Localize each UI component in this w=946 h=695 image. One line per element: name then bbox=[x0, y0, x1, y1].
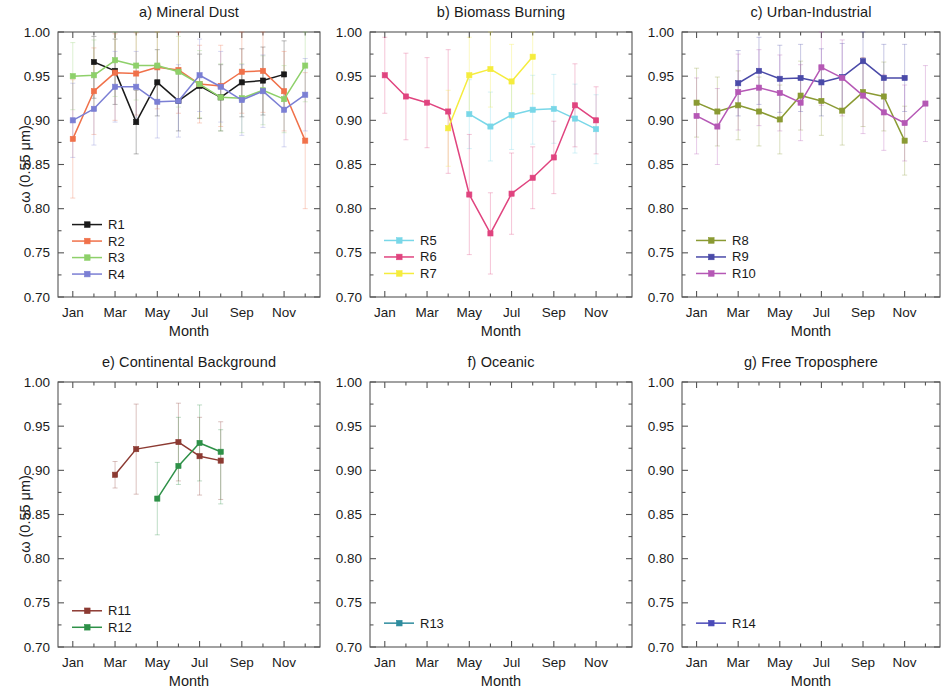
errorbars-R2 bbox=[70, 32, 307, 209]
xtick-label: May bbox=[767, 305, 793, 320]
xtick-label: Jul bbox=[191, 305, 208, 320]
ytick-label: 1.00 bbox=[648, 375, 674, 390]
ytick-label: 1.00 bbox=[336, 375, 362, 390]
xtick-label: May bbox=[457, 655, 483, 670]
legend-entry-R7[interactable]: R7 bbox=[384, 266, 437, 281]
legend-entry-R12[interactable]: R12 bbox=[72, 620, 132, 635]
legend-label-R1: R1 bbox=[108, 217, 125, 232]
xtick-label: Nov bbox=[272, 655, 296, 670]
xtick-label: Jul bbox=[503, 655, 520, 670]
xtick-label: Nov bbox=[584, 655, 608, 670]
ytick-label: 0.95 bbox=[648, 419, 674, 434]
legend-entry-R8[interactable]: R8 bbox=[696, 233, 749, 248]
panel-g: g) Free Troposphere1.000.950.900.850.800… bbox=[624, 354, 946, 695]
ytick-label: 0.85 bbox=[336, 507, 362, 522]
xtick-label: Nov bbox=[584, 305, 608, 320]
legend-entry-R10[interactable]: R10 bbox=[696, 266, 756, 281]
x-axis-title-g: Month bbox=[682, 673, 940, 689]
ytick-label: 0.70 bbox=[336, 640, 362, 655]
legend-entry-R13[interactable]: R13 bbox=[384, 616, 444, 631]
plot-area-b: 1.000.950.900.850.800.750.70JanMarMayJul… bbox=[312, 4, 654, 345]
ytick-label: 0.95 bbox=[336, 69, 362, 84]
legend-label-R5: R5 bbox=[420, 233, 437, 248]
ytick-label: 0.75 bbox=[336, 595, 362, 610]
ytick-label: 0.95 bbox=[336, 419, 362, 434]
xtick-label: Jul bbox=[191, 655, 208, 670]
ytick-label: 0.80 bbox=[648, 201, 674, 216]
xtick-label: Sep bbox=[230, 305, 254, 320]
series-R2 bbox=[70, 65, 308, 144]
xtick-label: Jan bbox=[374, 655, 396, 670]
ytick-label: 0.90 bbox=[648, 113, 674, 128]
ytick-label: 0.70 bbox=[648, 290, 674, 305]
legend-label-R10: R10 bbox=[732, 266, 756, 281]
legend-entry-R1[interactable]: R1 bbox=[72, 217, 125, 232]
xtick-label: May bbox=[457, 305, 483, 320]
x-axis-title-b: Month bbox=[370, 323, 632, 339]
xtick-label: Mar bbox=[727, 305, 751, 320]
ytick-label: 0.75 bbox=[648, 245, 674, 260]
xtick-label: May bbox=[145, 305, 171, 320]
errorbars-R1 bbox=[91, 36, 286, 153]
legend-entry-R9[interactable]: R9 bbox=[696, 249, 749, 264]
xtick-label: Sep bbox=[230, 655, 254, 670]
ytick-label: 0.80 bbox=[336, 551, 362, 566]
legend-entry-R5[interactable]: R5 bbox=[384, 233, 437, 248]
ytick-label: 0.70 bbox=[648, 640, 674, 655]
figure-canvas: a) Mineral Dust1.000.950.900.850.800.750… bbox=[0, 0, 946, 695]
x-axis-title-f: Month bbox=[370, 673, 632, 689]
legend-entry-R2[interactable]: R2 bbox=[72, 234, 125, 249]
xtick-label: Jan bbox=[374, 305, 396, 320]
xtick-label: Jul bbox=[813, 655, 830, 670]
xtick-label: Sep bbox=[542, 655, 566, 670]
xtick-label: Mar bbox=[727, 655, 751, 670]
errorbars-R12 bbox=[155, 405, 223, 535]
xtick-label: Nov bbox=[893, 305, 917, 320]
plot-area-c: 1.000.950.900.850.800.750.70JanMarMayJul… bbox=[624, 4, 946, 345]
legend-label-R13: R13 bbox=[420, 616, 444, 631]
errorbars-R11 bbox=[113, 403, 224, 499]
ytick-label: 0.70 bbox=[336, 290, 362, 305]
legend-entry-R6[interactable]: R6 bbox=[384, 249, 437, 264]
ytick-label: 0.85 bbox=[336, 157, 362, 172]
legend-entry-R3[interactable]: R3 bbox=[72, 250, 125, 265]
xtick-label: Mar bbox=[103, 655, 127, 670]
xtick-label: May bbox=[767, 655, 793, 670]
ytick-label: 0.80 bbox=[648, 551, 674, 566]
ytick-label: 0.85 bbox=[648, 507, 674, 522]
legend-label-R11: R11 bbox=[108, 603, 131, 618]
xtick-label: Nov bbox=[893, 655, 917, 670]
y-axis-title-a: ω (0.55 μm) bbox=[16, 31, 32, 296]
plot-area-a: 1.000.950.900.850.800.750.70JanMarMayJul… bbox=[0, 4, 342, 345]
xtick-label: Jan bbox=[686, 305, 708, 320]
legend-label-R9: R9 bbox=[732, 249, 749, 264]
ytick-label: 1.00 bbox=[336, 25, 362, 40]
ytick-label: 0.75 bbox=[336, 245, 362, 260]
legend-label-R8: R8 bbox=[732, 233, 749, 248]
legend-label-R3: R3 bbox=[108, 250, 125, 265]
panel-b: b) Biomass Burning1.000.950.900.850.800.… bbox=[312, 4, 654, 345]
legend-entry-R14[interactable]: R14 bbox=[696, 616, 756, 631]
ytick-label: 0.90 bbox=[336, 463, 362, 478]
plot-area-g: 1.000.950.900.850.800.750.70JanMarMayJul… bbox=[624, 354, 946, 695]
xtick-label: Jul bbox=[813, 305, 830, 320]
legend-entry-R4[interactable]: R4 bbox=[72, 267, 125, 282]
x-axis-title-a: Month bbox=[58, 323, 320, 339]
xtick-label: Jan bbox=[62, 305, 84, 320]
xtick-label: Sep bbox=[851, 305, 875, 320]
x-axis-title-c: Month bbox=[682, 323, 940, 339]
legend-entry-R11[interactable]: R11 bbox=[72, 603, 131, 618]
xtick-label: May bbox=[145, 655, 171, 670]
xtick-label: Jan bbox=[686, 655, 708, 670]
legend-label-R6: R6 bbox=[420, 249, 437, 264]
xtick-label: Jul bbox=[503, 305, 520, 320]
xtick-label: Jan bbox=[62, 655, 84, 670]
ytick-label: 0.85 bbox=[648, 157, 674, 172]
ytick-label: 0.75 bbox=[648, 595, 674, 610]
panel-e: e) Continental Background1.000.950.900.8… bbox=[0, 354, 342, 695]
xtick-label: Nov bbox=[272, 305, 296, 320]
ytick-label: 0.90 bbox=[336, 113, 362, 128]
legend-label-R12: R12 bbox=[108, 620, 132, 635]
xtick-label: Mar bbox=[415, 655, 439, 670]
x-axis-title-e: Month bbox=[58, 673, 320, 689]
